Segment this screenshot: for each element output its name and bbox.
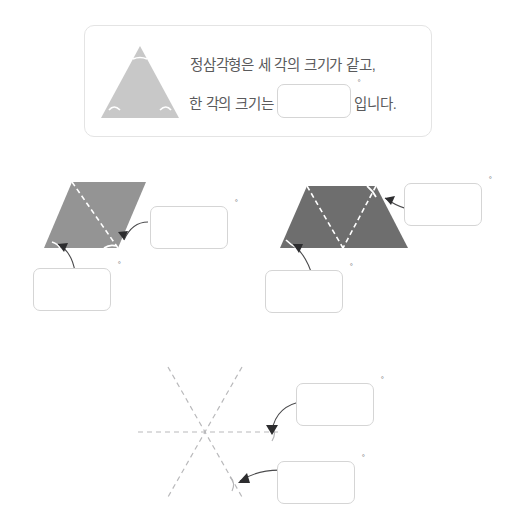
statement-answer-input[interactable] <box>277 84 351 118</box>
parallelogram-answer-right-input[interactable] <box>150 206 228 249</box>
degree-symbol: ° <box>357 79 360 87</box>
star-answer-lower-wrap: ° <box>277 461 355 504</box>
equilateral-triangle-icon <box>97 40 183 124</box>
statement-line-2-prefix: 한 각의 크기는 <box>189 92 273 113</box>
degree-symbol: ° <box>489 176 492 184</box>
degree-symbol: ° <box>235 199 238 207</box>
statement-line-2-suffix: 입니다. <box>354 92 396 113</box>
degree-symbol: ° <box>118 261 121 269</box>
trapezoid-answer-topright-wrap: ° <box>404 183 482 226</box>
star-answer-lower-input[interactable] <box>277 461 355 504</box>
statement-answer-wrap: ° <box>277 84 351 121</box>
trapezoid-answer-bottomleft-wrap: ° <box>265 270 343 313</box>
statement-line-1: 정삼각형은 세 각의 크기가 같고, <box>190 53 376 74</box>
parallelogram-answer-right-wrap: ° <box>150 206 228 249</box>
star-answer-upper-wrap: ° <box>296 383 374 426</box>
degree-symbol: ° <box>381 376 384 384</box>
worksheet-canvas: 정삼각형은 세 각의 크기가 같고, 한 각의 크기는 ° 입니다. ° <box>0 0 514 525</box>
degree-symbol: ° <box>350 263 353 271</box>
statement-card: 정삼각형은 세 각의 크기가 같고, 한 각의 크기는 ° 입니다. <box>84 25 432 137</box>
degree-symbol: ° <box>362 454 365 462</box>
parallelogram-answer-left-wrap: ° <box>33 268 111 311</box>
trapezoid-answer-bottomleft-input[interactable] <box>265 270 343 313</box>
intersecting-lines-figure <box>120 355 410 525</box>
star-answer-upper-input[interactable] <box>296 383 374 426</box>
statement-text: 정삼각형은 세 각의 크기가 같고, 한 각의 크기는 ° 입니다. <box>189 44 427 122</box>
parallelogram-answer-left-input[interactable] <box>33 268 111 311</box>
trapezoid-answer-topright-input[interactable] <box>404 183 482 226</box>
